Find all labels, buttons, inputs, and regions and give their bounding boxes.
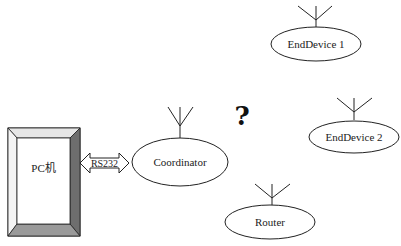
router-label: Router bbox=[255, 216, 285, 228]
pc-bevel-top bbox=[8, 128, 80, 138]
node-coordinator: Coordinator bbox=[132, 107, 228, 186]
pc-label: PC机 bbox=[31, 161, 55, 174]
enddevice-2-label: EndDevice 2 bbox=[325, 131, 382, 143]
enddevice-1-label: EndDevice 1 bbox=[287, 38, 344, 50]
rs232-link: RS232 bbox=[80, 153, 129, 173]
coordinator-label: Coordinator bbox=[153, 156, 206, 168]
node-enddevice-2: EndDevice 2 bbox=[309, 98, 399, 153]
question-mark-icon: ? bbox=[234, 101, 249, 131]
node-router: Router bbox=[225, 184, 315, 239]
node-enddevice-1: EndDevice 1 bbox=[271, 6, 361, 61]
pc-screen-face bbox=[17, 138, 70, 224]
pc-computer: PC机 bbox=[8, 128, 80, 236]
pc-bevel-left bbox=[8, 128, 17, 236]
network-diagram: PC机 RS232 Coordinator ? EndDevice 1 EndD… bbox=[0, 0, 401, 246]
pc-bevel-right bbox=[70, 128, 80, 236]
pc-bevel-bottom bbox=[8, 224, 80, 236]
rs232-label: RS232 bbox=[91, 158, 118, 169]
